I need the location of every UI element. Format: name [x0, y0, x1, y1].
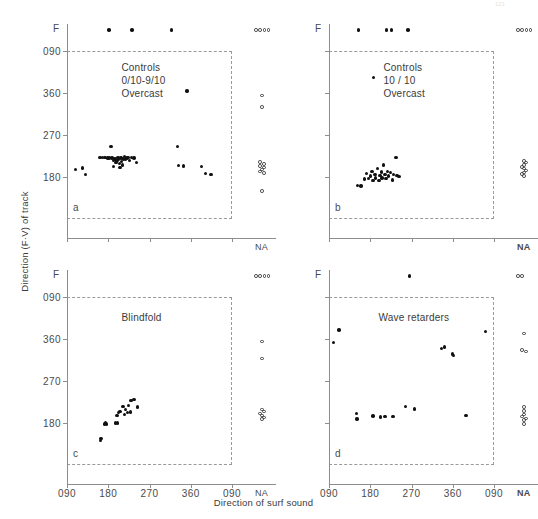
x-tick-b-1	[370, 238, 371, 242]
data-point	[132, 398, 135, 401]
na-column-label-b: NA	[517, 242, 531, 252]
y-tick-label-a-3: 180	[43, 172, 61, 183]
na-point	[260, 94, 264, 98]
data-points-b	[329, 51, 494, 219]
panel-d: F090180270360090NAdWave retarders	[329, 297, 494, 465]
f-row-label-d: F	[315, 269, 322, 280]
data-point	[135, 161, 138, 164]
data-point	[109, 145, 112, 148]
x-tick-label-c-2: 270	[141, 488, 159, 499]
y-tick-label-c-2: 270	[43, 376, 61, 387]
data-point	[116, 421, 119, 424]
data-point	[359, 184, 362, 187]
f-na-point	[267, 28, 271, 32]
y-tick-label-a-0: 090	[43, 46, 61, 57]
y-tick-label-a-2: 270	[43, 130, 61, 141]
data-point	[115, 414, 118, 417]
page-number: 121	[495, 1, 505, 7]
na-column-label-a: NA	[255, 242, 268, 252]
f-na-point	[263, 28, 267, 32]
y-tick-label-a-1: 360	[43, 88, 61, 99]
x-tick-b-4	[494, 238, 495, 242]
na-column-label-d: NA	[517, 488, 531, 498]
y-tick-label-c-3: 180	[43, 418, 61, 429]
data-point	[182, 164, 185, 167]
data-point	[132, 156, 135, 159]
x-tick-label-c-3: 360	[182, 488, 200, 499]
data-point	[129, 410, 132, 413]
data-point	[127, 404, 130, 407]
x-tick-label-d-3: 360	[444, 488, 462, 499]
f-na-point	[516, 274, 520, 278]
f-row-point	[390, 28, 393, 31]
f-na-point	[520, 274, 524, 278]
data-point	[452, 354, 455, 357]
data-point	[84, 173, 87, 176]
f-row-point	[130, 28, 133, 31]
x-tick-b-0	[329, 238, 330, 242]
x-tick-label-d-1: 180	[361, 488, 379, 499]
data-point	[332, 341, 335, 344]
x-tick-b-3	[453, 238, 454, 242]
data-point	[209, 173, 212, 176]
f-row-point	[107, 28, 110, 31]
y-tick-label-c-1: 360	[43, 334, 61, 345]
na-point	[522, 174, 526, 178]
data-point	[383, 415, 386, 418]
na-column-label-c: NA	[255, 488, 268, 498]
f-na-point	[263, 274, 267, 278]
f-row-point	[385, 28, 388, 31]
f-na-point	[529, 28, 533, 32]
data-point	[204, 172, 207, 175]
data-point	[177, 164, 180, 167]
f-na-point	[254, 274, 258, 278]
data-point	[185, 89, 188, 92]
x-tick-a-3	[191, 238, 192, 242]
x-tick-a-4	[232, 238, 233, 242]
data-point	[371, 414, 374, 417]
x-axis-spine-d	[329, 484, 538, 485]
data-point	[355, 417, 358, 420]
x-tick-label-c-4: 090	[223, 488, 241, 499]
data-point	[365, 172, 368, 175]
na-point	[260, 357, 264, 361]
data-point	[394, 156, 397, 159]
data-point	[337, 328, 340, 331]
data-point	[369, 174, 372, 177]
data-points-c	[67, 297, 232, 465]
data-point	[391, 178, 394, 181]
f-na-point	[258, 28, 262, 32]
f-na-point	[525, 28, 529, 32]
x-tick-label-d-2: 270	[403, 488, 421, 499]
na-point	[260, 189, 264, 193]
data-point	[355, 412, 358, 415]
data-point	[105, 422, 108, 425]
data-point	[99, 437, 102, 440]
y-tick-label-c-0: 090	[43, 292, 61, 303]
data-point	[118, 410, 121, 413]
x-tick-label-c-0: 090	[58, 488, 76, 499]
x-tick-label-c-1: 180	[99, 488, 117, 499]
na-point	[262, 410, 266, 414]
panel-c: 090360270180F090180270360090NAcBlindfold	[67, 297, 232, 465]
x-tick-a-2	[150, 238, 151, 242]
f-row-label-b: F	[315, 23, 322, 34]
na-point	[262, 171, 266, 175]
x-tick-b-2	[412, 238, 413, 242]
data-point	[176, 145, 179, 148]
na-point	[260, 340, 264, 344]
y-axis-title: Direction (F·V) of track	[19, 152, 30, 332]
data-points-d	[329, 297, 494, 465]
f-na-point	[516, 28, 520, 32]
na-point	[260, 105, 264, 109]
data-point	[376, 167, 379, 170]
f-row-label-a: F	[53, 23, 60, 34]
x-tick-label-d-4: 090	[485, 488, 503, 499]
x-tick-label-d-0: 090	[320, 488, 338, 499]
data-point	[112, 165, 115, 168]
na-point	[524, 350, 528, 354]
panel-b: FNAbControls 10 / 10 Overcast	[329, 51, 494, 219]
f-row-point	[170, 28, 173, 31]
data-points-a	[67, 51, 232, 219]
data-point	[136, 405, 139, 408]
